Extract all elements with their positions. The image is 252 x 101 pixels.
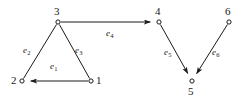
edge-label-e3: e3 [75, 46, 82, 55]
edge-label-subscript-e3: 3 [79, 49, 82, 56]
edge-label-e5: e5 [164, 48, 171, 57]
edge-layer [24, 22, 228, 81]
edge-label-subscript-e5: 5 [168, 51, 171, 58]
edge-label-e2: e2 [23, 46, 30, 55]
graph-node-5 [190, 79, 194, 83]
node-label-4: 4 [155, 6, 161, 17]
node-label-1: 1 [96, 75, 102, 86]
edge-label-subscript-e6: 6 [216, 51, 219, 58]
node-label-6: 6 [225, 6, 231, 17]
node-label-5: 5 [188, 86, 194, 97]
edge-label-subscript-e4: 4 [110, 32, 113, 39]
graph-node-1 [89, 79, 93, 83]
graph-node-2 [20, 79, 24, 83]
edge-label-e1: e1 [50, 62, 57, 71]
node-label-3: 3 [54, 6, 60, 17]
edge-label-subscript-e1: 1 [54, 65, 57, 72]
graph-node-6 [227, 20, 231, 24]
graph-node-4 [157, 20, 161, 24]
edge-label-subscript-e2: 2 [27, 49, 30, 56]
graph-figure: 123456e1e2e3e4e5e6 [0, 0, 252, 101]
graph-node-3 [56, 20, 60, 24]
node-layer [20, 20, 231, 83]
edge-label-e4: e4 [106, 29, 113, 38]
edge-label-e6: e6 [212, 48, 219, 57]
node-label-2: 2 [11, 75, 17, 86]
